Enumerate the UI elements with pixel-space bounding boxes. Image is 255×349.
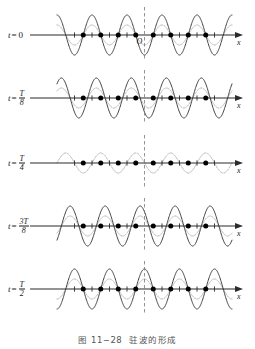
node-dot-4-0: [81, 287, 86, 292]
node-dot-3-2: [116, 224, 121, 229]
node-dot-4-5: [168, 287, 173, 292]
figure-caption: 图 11−28驻波的形成: [0, 333, 255, 345]
standing-wave-figure: t=0xOt=T8xt=T4xt=3T8xt=T2x: [0, 0, 255, 349]
wave-plot-0: [0, 5, 255, 65]
node-dot-0-5: [168, 33, 173, 38]
node-dot-3-1: [98, 224, 103, 229]
node-dot-4-1: [98, 287, 103, 292]
x-axis-label-2: x: [237, 166, 241, 175]
node-dot-3-6: [186, 224, 191, 229]
node-dot-2-0: [81, 161, 86, 166]
node-dot-2-3: [133, 161, 138, 166]
node-dot-0-7: [203, 33, 208, 38]
x-axis-label-3: x: [237, 229, 241, 238]
node-dot-1-0: [81, 96, 86, 101]
node-dot-3-5: [168, 224, 173, 229]
node-dot-1-2: [116, 96, 121, 101]
node-dot-1-5: [168, 96, 173, 101]
node-dot-2-7: [203, 161, 208, 166]
caption-number: 图 11−28: [78, 335, 122, 345]
node-dot-3-0: [81, 224, 86, 229]
node-dot-3-4: [151, 224, 156, 229]
wave-plot-2: [0, 133, 255, 193]
wave-plot-3: [0, 196, 255, 256]
node-dot-2-2: [116, 161, 121, 166]
wave-panel-0: t=0xO: [0, 5, 255, 65]
node-dot-4-7: [203, 287, 208, 292]
wave-plot-1: [0, 68, 255, 128]
node-dot-4-2: [116, 287, 121, 292]
node-dot-0-4: [151, 33, 156, 38]
node-dot-4-3: [133, 287, 138, 292]
caption-text: 驻波的形成: [129, 335, 177, 345]
node-dot-4-4: [151, 287, 156, 292]
node-dot-3-7: [203, 224, 208, 229]
x-axis-label-0: x: [237, 38, 241, 47]
wave-plot-4: [0, 259, 255, 319]
node-dot-1-6: [186, 96, 191, 101]
x-axis-label-4: x: [237, 292, 241, 301]
node-dot-1-7: [203, 96, 208, 101]
node-dot-0-1: [98, 33, 103, 38]
wave-panel-2: t=T4x: [0, 133, 255, 193]
node-dot-2-1: [98, 161, 103, 166]
node-dot-2-4: [151, 161, 156, 166]
node-dot-0-2: [116, 33, 121, 38]
node-dot-0-6: [186, 33, 191, 38]
origin-label: O: [137, 37, 143, 46]
node-dot-2-5: [168, 161, 173, 166]
wave-panel-3: t=3T8x: [0, 196, 255, 256]
node-dot-2-6: [186, 161, 191, 166]
node-dot-1-1: [98, 96, 103, 101]
wave-panel-1: t=T8x: [0, 68, 255, 128]
node-dot-1-4: [151, 96, 156, 101]
node-dot-4-6: [186, 287, 191, 292]
x-axis-label-1: x: [237, 101, 241, 110]
node-dot-3-3: [133, 224, 138, 229]
wave-panel-4: t=T2x: [0, 259, 255, 319]
node-dot-1-3: [133, 96, 138, 101]
node-dot-0-0: [81, 33, 86, 38]
